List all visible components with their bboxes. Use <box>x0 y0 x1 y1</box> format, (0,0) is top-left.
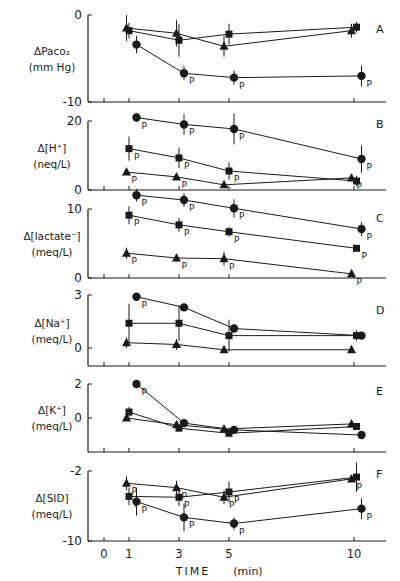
y-tick-label: 0 <box>74 8 82 22</box>
circle-marker <box>132 497 140 505</box>
y-axis-label: Δ[SID] <box>35 492 68 504</box>
significance-p-label: P <box>134 152 140 162</box>
significance-p-label: P <box>142 387 148 397</box>
significance-p-label: P <box>234 235 240 245</box>
triangle-marker <box>122 167 131 176</box>
significance-p-label: P <box>367 512 373 522</box>
square-marker <box>126 27 133 34</box>
series-line-circle <box>137 502 362 524</box>
panel-label: D <box>376 304 384 317</box>
y-tick-label: 20 <box>67 114 82 128</box>
square-marker <box>126 145 133 152</box>
circle-marker <box>132 380 140 388</box>
y-axis-unit: (meq/L) <box>32 508 73 520</box>
significance-p-label: P <box>184 161 190 171</box>
triangle-marker <box>347 173 356 182</box>
significance-p-label: P <box>182 180 188 190</box>
circle-marker <box>132 293 140 301</box>
significance-p-label: P <box>357 482 363 492</box>
significance-p-label: P <box>189 203 195 213</box>
y-axis-unit: (meq/L) <box>32 246 73 258</box>
x-axis-unit-label: (min) <box>233 565 262 578</box>
y-tick-label: 0 <box>74 341 82 355</box>
significance-p-label: P <box>132 175 138 185</box>
series-line-triangle <box>127 343 352 350</box>
circle-marker <box>132 113 140 121</box>
x-axis-title: TIME <box>175 565 210 578</box>
triangle-marker <box>122 338 131 347</box>
y-tick-label: -10 <box>62 95 82 109</box>
triangle-marker <box>220 254 229 263</box>
square-marker <box>226 228 233 235</box>
multi-panel-chart: 0-10ΔPaco₂(mm Hg)APPP200Δ[H⁺](neq/L)BPPP… <box>0 0 400 581</box>
square-marker <box>353 245 360 252</box>
series-line-circle <box>137 297 362 336</box>
y-axis-label: Δ[H⁺] <box>38 142 67 154</box>
square-marker <box>226 489 233 496</box>
triangle-marker <box>122 248 131 257</box>
significance-p-label: P <box>239 132 245 142</box>
square-marker <box>353 332 360 339</box>
circle-marker <box>357 431 365 439</box>
x-tick-label: 10 <box>347 547 362 561</box>
square-marker <box>226 332 233 339</box>
square-marker <box>176 320 183 327</box>
significance-p-label: P <box>239 211 245 221</box>
circle-marker <box>357 225 365 233</box>
circle-marker <box>230 324 238 332</box>
square-marker <box>126 212 133 219</box>
circle-marker <box>230 73 238 81</box>
y-axis-unit: (neq/L) <box>33 158 70 170</box>
circle-marker <box>180 513 188 521</box>
x-tick-label: 3 <box>175 547 182 561</box>
square-marker <box>176 154 183 161</box>
square-marker <box>353 24 360 31</box>
square-marker <box>126 320 133 327</box>
triangle-marker <box>122 478 131 487</box>
series-line-triangle <box>127 253 352 274</box>
figure: 0-10ΔPaco₂(mm Hg)APPP200Δ[H⁺](neq/L)BPPP… <box>0 0 400 581</box>
y-tick-label: -10 <box>62 534 82 548</box>
significance-p-label: P <box>142 505 148 515</box>
triangle-marker <box>347 345 356 354</box>
significance-p-label: P <box>234 495 240 505</box>
significance-p-label: P <box>184 500 190 510</box>
x-tick-label: 1 <box>125 547 132 561</box>
significance-p-label: P <box>229 262 235 272</box>
y-axis-label: Δ[K⁺] <box>38 404 66 416</box>
significance-p-label: P <box>357 277 363 287</box>
circle-marker <box>357 155 365 163</box>
circle-marker <box>230 519 238 527</box>
y-axis-unit: (mm Hg) <box>29 61 76 73</box>
y-tick-label: 10 <box>67 202 82 216</box>
y-tick-label: 2 <box>74 377 82 391</box>
series-line-circle <box>137 45 362 78</box>
square-marker <box>226 168 233 175</box>
x-tick-label: 5 <box>225 547 232 561</box>
square-marker <box>176 494 183 501</box>
series-line-triangle <box>127 28 352 46</box>
square-marker <box>226 31 233 38</box>
significance-p-label: P <box>134 218 140 228</box>
significance-p-label: P <box>132 256 138 266</box>
circle-marker <box>180 303 188 311</box>
y-tick-label: -2 <box>70 464 82 478</box>
circle-marker <box>180 196 188 204</box>
series-line-square <box>129 149 357 181</box>
significance-p-label: P <box>142 121 148 131</box>
circle-marker <box>357 72 365 80</box>
circle-marker <box>132 40 140 48</box>
series-line-circle <box>137 384 362 435</box>
circle-marker <box>180 69 188 77</box>
square-marker <box>353 474 360 481</box>
panel-label: C <box>376 212 384 225</box>
panel-label: B <box>376 118 384 131</box>
significance-p-label: P <box>189 76 195 86</box>
circle-marker <box>180 120 188 128</box>
series-line-circle <box>137 195 362 229</box>
circle-marker <box>230 204 238 212</box>
circle-marker <box>357 504 365 512</box>
panel-label: F <box>376 468 382 481</box>
circle-marker <box>132 191 140 199</box>
series-line-triangle <box>127 418 352 429</box>
